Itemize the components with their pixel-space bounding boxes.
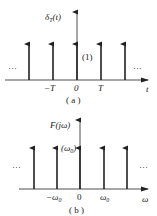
figure-b: F(jω) (ω0) ··· ··· −ω0 0 ω0 ω ( b ) (12, 120, 148, 215)
tick-label-zero-b: 0 (77, 192, 82, 202)
ellipsis-left-b: ··· (12, 162, 21, 172)
y-axis-label-a: δT(t) (45, 12, 61, 23)
tick-label-zero-a: 0 (74, 83, 79, 93)
caption-a: ( a ) (66, 95, 81, 105)
y-axis-label-b: F(jω) (49, 120, 70, 130)
caption-b: ( b ) (69, 205, 84, 215)
impulse-train-diagram: δT(t) (1) ··· ··· −T 0 T t ( a ) F(jω) (… (0, 0, 157, 216)
ellipsis-right-a: ··· (133, 63, 142, 73)
tick-label-omega0: ω0 (100, 192, 109, 203)
impulse-weight-a: (1) (82, 52, 93, 62)
figure-a: δT(t) (1) ··· ··· −T 0 T t ( a ) (5, 12, 149, 105)
x-axis-label-omega: ω (142, 194, 148, 204)
x-axis-label-t: t (146, 84, 149, 94)
tick-label-neg-T: −T (44, 83, 56, 93)
impulse-weight-b: (ω0) (61, 143, 76, 154)
tick-label-neg-omega0: −ω0 (46, 192, 61, 203)
tick-label-T: T (98, 83, 104, 93)
ellipsis-right-b: ··· (139, 162, 148, 172)
ellipsis-left-a: ··· (8, 63, 17, 73)
